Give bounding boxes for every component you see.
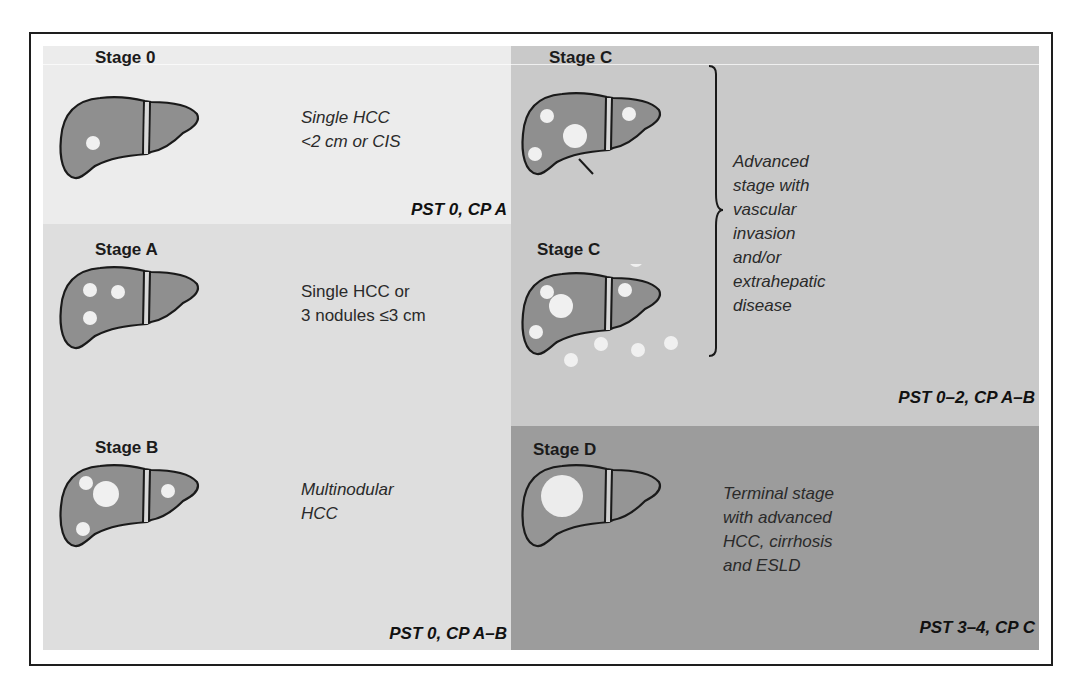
stage-0-title: Stage 0 [95, 48, 155, 68]
stage-b-description-line: Multinodular [301, 478, 394, 502]
stage-d-description: Terminal stage with advanced HCC, cirrho… [723, 482, 834, 578]
stage-0-criteria: PST 0, CP A [411, 200, 507, 220]
stage-d-criteria: PST 3–4, CP C [919, 618, 1035, 638]
stage-c-description-line: invasion [733, 222, 826, 246]
stage-c-criteria: PST 0–2, CP A–B [898, 388, 1035, 408]
bclc-staging-diagram: Stage 0 Single HCC <2 cm or CIS PST 0, C… [29, 32, 1053, 666]
liver-large-tumor-icon [517, 456, 667, 556]
stage-a-description-line: Single HCC or [301, 280, 426, 304]
stage-0-description: Single HCC <2 cm or CIS [301, 106, 401, 154]
liver-single-small-nodule-icon [55, 88, 205, 188]
stage-d-description-line: and ESLD [723, 554, 834, 578]
stage-c-description-line: and/or [733, 246, 826, 270]
stage-c-description-line: stage with [733, 174, 826, 198]
stage-c-vascular-title: Stage C [549, 48, 612, 68]
stage-a-b-panel: Stage A Single HCC or 3 nodules ≤3 cm St… [43, 224, 511, 650]
stage-a-title: Stage A [95, 240, 158, 260]
stage-c-extrahepatic-title: Stage C [537, 240, 600, 260]
stage-d-description-line: Terminal stage [723, 482, 834, 506]
stage-b-title: Stage B [95, 438, 158, 458]
stage-d-description-line: with advanced [723, 506, 834, 530]
stage-c-panel: Stage C Stage C [511, 46, 1039, 426]
liver-vascular-invasion-icon [517, 84, 667, 194]
stage-d-panel: Stage D Terminal stage with advanced HCC… [511, 426, 1039, 650]
stage-c-description-line: extrahepatic [733, 270, 826, 294]
liver-three-nodules-icon [55, 258, 205, 358]
right-curly-brace-icon [707, 60, 727, 360]
stage-c-description-line: Advanced [733, 150, 826, 174]
stage-c-description-line: vascular [733, 198, 826, 222]
stage-c-description: Advanced stage with vascular invasion an… [733, 150, 826, 318]
stage-b-description: Multinodular HCC [301, 478, 394, 526]
stage-d-description-line: HCC, cirrhosis [723, 530, 834, 554]
stage-b-description-line: HCC [301, 502, 394, 526]
liver-extrahepatic-spread-icon [517, 264, 687, 384]
stage-0-description-line: Single HCC [301, 106, 401, 130]
stage-a-description: Single HCC or 3 nodules ≤3 cm [301, 280, 426, 328]
liver-multinodular-icon [55, 456, 205, 556]
stage-0-description-line: <2 cm or CIS [301, 130, 401, 154]
stage-a-description-line: 3 nodules ≤3 cm [301, 304, 426, 328]
stage-0-panel: Stage 0 Single HCC <2 cm or CIS PST 0, C… [43, 46, 511, 224]
stage-b-criteria: PST 0, CP A–B [389, 624, 507, 644]
stage-c-description-line: disease [733, 294, 826, 318]
